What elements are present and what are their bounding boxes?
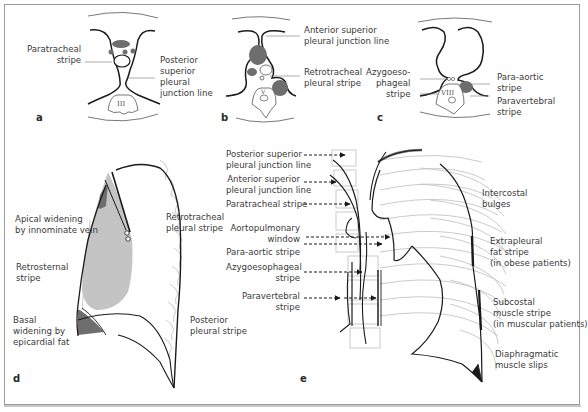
label-basal-widening-d: Basal widening by epicardial fat (13, 315, 69, 348)
label-paratracheal-stripe-a: Paratracheal stripe (27, 44, 81, 66)
panel-e-drawing (304, 150, 507, 382)
label-posterior-pleural-stripe-d: Posterior pleural stripe (190, 315, 247, 337)
label-azygoesophageal-stripe-c: Azygoeso- phageal stripe (366, 67, 410, 100)
panel-letter-a: a (36, 112, 43, 123)
panel-letter-c: c (377, 112, 383, 123)
label-retrotracheal-pleural-stripe-d: Retrotracheal pleural stripe (166, 212, 224, 234)
panel-d-drawing (77, 160, 182, 388)
label-intercostal-bulges-e: Intercostal bulges (482, 188, 527, 210)
panel-b-drawing: V (226, 17, 300, 122)
label-aortopulmonary-window-e: Aortopulmonary window (226, 223, 300, 245)
panel-letter-d: d (13, 373, 20, 384)
vertebra-label-a: III (117, 100, 126, 108)
label-paravertebral-stripe-c: Paravertebral stripe (497, 96, 555, 118)
label-para-aortic-stripe-c: Para-aortic stripe (497, 72, 544, 94)
label-paratracheal-stripe-e: Paratracheal stripe (226, 199, 300, 210)
label-apical-widening-d: Apical widening by innominate vein (15, 214, 98, 236)
label-anterior-superior-pleural-junction-line-b: Anterior superior pleural junction line (304, 25, 389, 47)
vertebra-label-b: V (260, 88, 266, 95)
label-posterior-superior-pleural-junction-line-a: Posterior superior pleural junction line (160, 55, 213, 99)
label-diaphragmatic-muscle-slips-e: Diaphragmatic muscle slips (495, 349, 559, 371)
panel-letter-e: e (300, 373, 307, 384)
panel-letter-b: b (221, 112, 228, 123)
vertebra-label-c: VIII (440, 89, 455, 97)
label-retrotracheal-pleural-stripe-b: Retrotracheal pleural stripe (304, 67, 362, 89)
label-posterior-superior-pleural-junction-line-e: Posterior superior pleural junction line (226, 149, 300, 171)
panel-c-drawing: VIII (418, 18, 492, 118)
label-para-aortic-stripe-e: Para-aortic stripe (226, 247, 300, 258)
label-anterior-superior-pleural-junction-line-e: Anterior superior pleural junction line (226, 174, 300, 196)
label-subcostal-muscle-stripe-e: Subcostal muscle stripe (in muscular pat… (493, 297, 588, 330)
panel-a-drawing: III (85, 12, 160, 120)
label-extrapleural-fat-stripe-e: Extrapleural fat stripe (in obese patien… (490, 236, 571, 269)
label-retrosternal-stripe-d: Retrosternal stripe (16, 262, 68, 284)
label-paravertebral-stripe-e: Paravertebral stripe (226, 291, 300, 313)
label-azygoesophageal-stripe-e: Azygoesophageal stripe (226, 262, 300, 284)
